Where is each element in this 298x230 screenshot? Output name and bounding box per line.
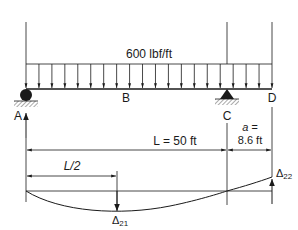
point-b-label: B bbox=[122, 91, 130, 105]
point-d-label: D bbox=[268, 91, 277, 105]
deflected-shape-curve bbox=[26, 177, 272, 211]
deflection-22-label: Δ22 bbox=[276, 167, 293, 181]
half-span-label: L/2 bbox=[64, 159, 81, 173]
load-label: 600 lbf/ft bbox=[126, 47, 173, 61]
overhang-label-line2: 8.6 ft bbox=[238, 134, 262, 146]
lower-extension-lines bbox=[26, 107, 272, 205]
point-c-label: C bbox=[223, 109, 232, 123]
support-a-icon bbox=[14, 89, 38, 107]
beam-diagram: 600 lbf/ft A B C D L = 50 ft a = 8.6 ft … bbox=[0, 0, 298, 230]
distributed-load bbox=[26, 64, 272, 88]
support-c-icon bbox=[215, 89, 239, 105]
deflection-21-label: Δ21 bbox=[112, 214, 129, 228]
overhang-label-line1: a = bbox=[242, 121, 258, 133]
point-a-label: A bbox=[14, 109, 22, 123]
span-dimension-label: L = 50 ft bbox=[153, 134, 197, 148]
